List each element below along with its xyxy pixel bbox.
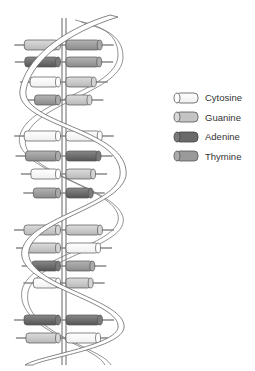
guanine-base [66, 95, 92, 105]
thymine-base [25, 151, 60, 161]
legend: Cytosine Guanine Adenine Thymine [172, 88, 242, 166]
legend-item-cytosine: Cytosine [172, 88, 242, 108]
adenine-base [24, 315, 60, 325]
adenine-cylinder-icon [172, 131, 202, 143]
thymine-base [66, 261, 95, 271]
legend-item-thymine: Thymine [172, 147, 242, 167]
guanine-base [66, 278, 93, 288]
adenine-base [66, 151, 101, 161]
helix-axis [62, 18, 66, 365]
legend-label: Thymine [205, 151, 241, 162]
thymine-base [66, 40, 102, 50]
adenine-base [66, 315, 102, 325]
cytosine-base [30, 77, 60, 87]
thymine-base [33, 188, 60, 198]
legend-item-guanine: Guanine [172, 108, 242, 128]
cytosine-base [31, 169, 61, 179]
legend-label: Adenine [205, 131, 240, 142]
dna-helix-diagram [0, 0, 255, 371]
guanine-base [26, 333, 61, 343]
legend-label: Cytosine [205, 92, 242, 103]
guanine-base [66, 169, 96, 179]
base-pairs [14, 40, 114, 343]
cytosine-base [66, 243, 101, 253]
guanine-base [66, 225, 102, 235]
guanine-base [66, 77, 96, 87]
cytosine-base [24, 131, 60, 141]
legend-label: Guanine [205, 112, 241, 123]
cytosine-cylinder-icon [172, 92, 202, 104]
cytosine-base [66, 333, 101, 343]
thymine-cylinder-icon [172, 150, 202, 162]
adenine-base [66, 188, 93, 198]
guanine-cylinder-icon [172, 111, 202, 123]
thymine-base [35, 95, 61, 105]
legend-item-adenine: Adenine [172, 127, 242, 147]
thymine-base [66, 57, 102, 67]
